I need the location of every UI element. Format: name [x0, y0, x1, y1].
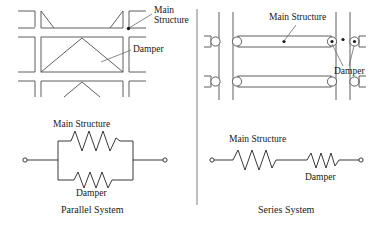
main-bay-box — [41, 37, 123, 72]
stub-upper-right — [359, 36, 366, 47]
label-damper-parallel-schematic: Damper — [76, 188, 107, 198]
frame-corner-bottom-left — [18, 81, 35, 97]
beam-lower — [238, 76, 331, 87]
label-main-structure-parallel-frame: Main Structure — [154, 5, 189, 26]
leader-main-structure — [129, 14, 152, 28]
marker-hinge-upper-outer-right — [353, 40, 356, 43]
leader-damper — [101, 50, 131, 62]
stub-upper-left — [204, 36, 211, 47]
hinge-upper-left — [232, 37, 241, 46]
caption-parallel-system: Parallel System — [61, 205, 124, 216]
diagram-canvas — [0, 0, 379, 229]
caption-series-system: Series System — [258, 205, 314, 216]
label-damper-series-frame: Damper — [334, 66, 365, 76]
hinge-lower-left — [232, 77, 241, 86]
series-schematic — [210, 150, 363, 170]
hinge-lower-outer-left — [211, 77, 220, 86]
frame-corner-top-left — [18, 11, 35, 28]
frame-corner-mid-right — [129, 37, 146, 72]
terminal-left — [210, 158, 214, 162]
frame-corner-mid-left — [18, 37, 35, 72]
label-main-structure-series-frame: Main Structure — [269, 12, 326, 22]
terminal-right — [163, 158, 167, 162]
terminal-left — [23, 158, 27, 162]
label-line-2: Structure — [154, 15, 189, 25]
spring-main-structure — [71, 131, 120, 151]
hinge-lower-right — [327, 77, 336, 86]
spring-damper — [74, 172, 112, 188]
label-main-structure-parallel-schematic: Main Structure — [53, 119, 110, 129]
figure-root: Main Structure Damper Main Structure Dam… — [0, 0, 379, 229]
parallel-frame — [18, 11, 152, 97]
parallel-schematic — [23, 131, 167, 188]
label-damper-parallel-frame: Damper — [133, 44, 164, 54]
spring-damper — [307, 153, 339, 168]
series-frame — [204, 12, 366, 100]
truss-damper-diagonals — [41, 38, 123, 72]
marker-main-structure — [127, 27, 130, 30]
hinge-upper-outer-left — [211, 37, 220, 46]
leader-series-damper-a — [332, 44, 343, 66]
label-damper-series-schematic: Damper — [305, 172, 336, 182]
label-line-1: Main — [154, 5, 189, 15]
marker-hinge-upper-right — [330, 40, 333, 43]
marker-damper-upper — [341, 38, 344, 41]
brace-top-right-diagonal — [110, 11, 123, 28]
spring-main-structure — [233, 150, 276, 170]
brace-top-left-diagonal — [41, 11, 54, 28]
terminal-right — [359, 158, 363, 162]
brace-bottom-chevron — [64, 82, 100, 97]
stub-lower-right — [359, 76, 366, 87]
hinge-lower-outer-right — [350, 77, 359, 86]
label-main-structure-series-schematic: Main Structure — [229, 134, 286, 144]
frame-corner-bottom-right — [129, 81, 146, 97]
stub-lower-left — [204, 76, 211, 87]
